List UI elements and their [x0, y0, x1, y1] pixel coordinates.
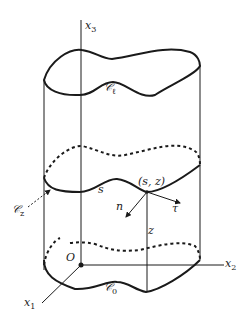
middle-curve-back — [44, 146, 200, 178]
tangent-label: τ — [172, 203, 178, 214]
x1-axis-label: x1 — [24, 297, 35, 311]
origin-point — [79, 263, 84, 268]
diagram-canvas — [0, 0, 244, 320]
normal-label: n — [116, 201, 123, 212]
middle-curve-front — [44, 165, 200, 192]
cylinder-diagram: x3 x2 x1 O 𝒞ℓ 𝒞z 𝒞0 (s, z) s z n τ — [0, 0, 244, 320]
x2-axis-label: x2 — [225, 258, 236, 272]
height-label: z — [148, 225, 154, 236]
x3-axis-label: x3 — [85, 20, 96, 34]
middle-curve-label: 𝒞z — [12, 204, 24, 218]
point-s-z — [145, 190, 149, 194]
bottom-curve-label: 𝒞0 — [104, 282, 117, 296]
normal-vector — [126, 192, 147, 217]
point-label: (s, z) — [138, 176, 165, 187]
top-curve — [44, 50, 200, 96]
top-curve-label: 𝒞ℓ — [104, 82, 116, 96]
arc-parameter-label: s — [98, 184, 104, 195]
cz-pointer-arrow — [28, 190, 50, 207]
origin-label: O — [66, 252, 75, 263]
